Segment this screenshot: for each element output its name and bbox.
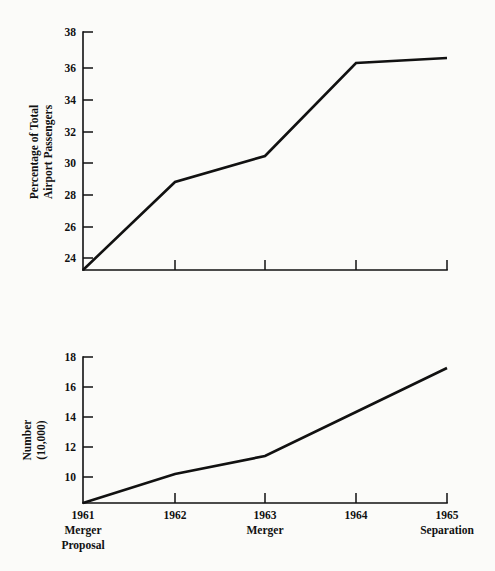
xtick-year-1965: 1965 <box>436 509 459 521</box>
two-panel-line-figure: 38 36 34 32 30 28 26 24 Percentage of To… <box>0 0 495 571</box>
bottom-panel: 18 16 14 12 10 Number (10,000) <box>21 351 447 503</box>
top-ytick-label-36: 36 <box>65 62 77 74</box>
x-axis-labels: 1961 Merger Proposal 1962 1963 Merger 19… <box>61 509 474 552</box>
bottom-ytick-label-12: 12 <box>65 441 77 453</box>
bottom-ytick-label-18: 18 <box>65 351 77 363</box>
xtick-year-1962: 1962 <box>164 509 187 521</box>
bottom-y-axis-title-line1: Number <box>21 420 33 461</box>
bottom-ytick-label-14: 14 <box>65 411 77 423</box>
top-y-axis-title-line2: Airport Passengers <box>42 104 55 199</box>
xtick-sub-1961-line1: Merger <box>64 524 101 537</box>
xtick-year-1961: 1961 <box>72 509 95 521</box>
top-ytick-label-26: 26 <box>65 221 77 233</box>
bottom-ytick-label-16: 16 <box>65 381 77 393</box>
top-y-axis-title-line1: Percentage of Total <box>28 105 41 199</box>
top-ytick-label-32: 32 <box>65 126 77 138</box>
top-ytick-label-38: 38 <box>65 26 77 38</box>
bottom-data-line <box>83 368 447 503</box>
xtick-sub-1965-line1: Separation <box>420 524 474 537</box>
bottom-ytick-label-10: 10 <box>65 471 77 483</box>
top-ytick-label-28: 28 <box>65 189 77 201</box>
xtick-sub-1963-line1: Merger <box>246 524 283 537</box>
top-ytick-label-34: 34 <box>65 94 77 106</box>
xtick-sub-1961-line2: Proposal <box>61 539 104 552</box>
xtick-year-1963: 1963 <box>254 509 277 521</box>
top-panel: 38 36 34 32 30 28 26 24 Percentage of To… <box>28 26 447 270</box>
top-data-line <box>83 58 447 270</box>
top-ytick-label-24: 24 <box>65 252 77 264</box>
top-ytick-label-30: 30 <box>65 157 77 169</box>
chart-canvas: 38 36 34 32 30 28 26 24 Percentage of To… <box>0 0 495 571</box>
bottom-y-axis-title-line2: (10,000) <box>35 420 48 459</box>
xtick-year-1964: 1964 <box>345 509 368 521</box>
